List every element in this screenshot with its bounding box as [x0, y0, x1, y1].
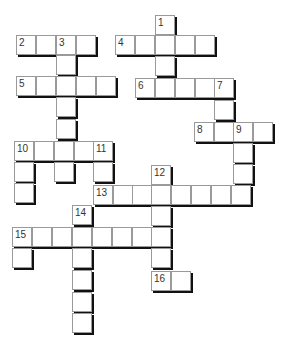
- crossword-cell[interactable]: [74, 141, 94, 161]
- crossword-cell[interactable]: 13: [93, 185, 113, 205]
- crossword-cell[interactable]: [96, 76, 116, 96]
- crossword-cell[interactable]: [56, 55, 76, 75]
- crossword-cell[interactable]: [113, 185, 133, 205]
- clue-number: 5: [19, 78, 25, 89]
- clue-number: 12: [154, 167, 165, 178]
- crossword-cell[interactable]: 8: [194, 122, 214, 142]
- clue-number: 16: [154, 273, 165, 284]
- crossword-cell[interactable]: [214, 122, 234, 142]
- clue-number: 11: [96, 143, 106, 154]
- crossword-cell[interactable]: [195, 35, 215, 55]
- crossword-cell[interactable]: [56, 97, 76, 117]
- crossword-cell[interactable]: [72, 313, 92, 333]
- crossword-cell[interactable]: [175, 78, 195, 98]
- crossword-cell[interactable]: 2: [16, 35, 36, 55]
- crossword-grid: 12345678910111213141516: [0, 0, 291, 353]
- crossword-cell[interactable]: 10: [14, 141, 34, 161]
- crossword-cell[interactable]: [72, 292, 92, 312]
- clue-number: 2: [19, 37, 25, 48]
- crossword-cell[interactable]: [231, 185, 251, 205]
- crossword-cell[interactable]: [214, 100, 234, 120]
- clue-number: 3: [59, 37, 65, 48]
- crossword-cell[interactable]: 9: [233, 122, 253, 142]
- crossword-cell[interactable]: [72, 270, 92, 290]
- crossword-cell[interactable]: 14: [72, 205, 92, 225]
- clue-number: 6: [138, 80, 144, 91]
- crossword-cell[interactable]: [14, 162, 34, 182]
- crossword-cell[interactable]: [93, 162, 113, 182]
- clue-number: 8: [197, 124, 203, 135]
- clue-number: 13: [96, 187, 107, 198]
- crossword-cell[interactable]: [54, 162, 74, 182]
- crossword-cell[interactable]: [92, 227, 112, 247]
- crossword-cell[interactable]: [233, 164, 253, 184]
- crossword-cell[interactable]: [112, 227, 132, 247]
- crossword-cell[interactable]: [76, 76, 96, 96]
- crossword-cell[interactable]: [76, 35, 96, 55]
- crossword-cell[interactable]: 12: [151, 165, 171, 185]
- clue-number: 7: [217, 80, 223, 91]
- clue-number: 9: [236, 124, 242, 135]
- crossword-cell[interactable]: [151, 248, 171, 268]
- crossword-cell[interactable]: [155, 35, 175, 55]
- crossword-cell[interactable]: [36, 35, 56, 55]
- crossword-cell[interactable]: [132, 227, 152, 247]
- crossword-cell[interactable]: [191, 185, 211, 205]
- crossword-cell[interactable]: [171, 185, 191, 205]
- crossword-cell[interactable]: 7: [214, 78, 234, 98]
- clue-number: 14: [75, 207, 86, 218]
- crossword-cell[interactable]: 15: [12, 227, 32, 247]
- clue-number: 15: [15, 229, 26, 240]
- clue-number: 1: [158, 17, 164, 28]
- crossword-cell[interactable]: [14, 183, 34, 203]
- crossword-cell[interactable]: [175, 35, 195, 55]
- clue-number: 4: [118, 37, 124, 48]
- crossword-cell[interactable]: [253, 122, 273, 142]
- crossword-cell[interactable]: [211, 185, 231, 205]
- crossword-cell[interactable]: [195, 78, 215, 98]
- crossword-cell[interactable]: [171, 271, 191, 291]
- crossword-cell[interactable]: [155, 56, 175, 76]
- crossword-cell[interactable]: [72, 248, 92, 268]
- crossword-cell[interactable]: [54, 141, 74, 161]
- crossword-cell[interactable]: 5: [16, 76, 36, 96]
- crossword-cell[interactable]: [56, 119, 76, 139]
- crossword-cell[interactable]: [132, 185, 152, 205]
- crossword-cell[interactable]: [155, 78, 175, 98]
- crossword-cell[interactable]: [72, 227, 92, 247]
- crossword-cell[interactable]: [32, 227, 52, 247]
- crossword-cell[interactable]: [56, 76, 76, 96]
- crossword-cell[interactable]: [151, 227, 171, 247]
- crossword-cell[interactable]: 4: [115, 35, 135, 55]
- crossword-cell[interactable]: [151, 185, 171, 205]
- crossword-cell[interactable]: [36, 76, 56, 96]
- crossword-cell[interactable]: [151, 206, 171, 226]
- crossword-cell[interactable]: 16: [151, 271, 171, 291]
- crossword-cell[interactable]: 3: [56, 35, 76, 55]
- crossword-cell[interactable]: [233, 143, 253, 163]
- crossword-cell[interactable]: [52, 227, 72, 247]
- crossword-cell[interactable]: 11: [93, 141, 113, 161]
- crossword-cell[interactable]: 6: [135, 78, 155, 98]
- crossword-cell[interactable]: 1: [155, 15, 175, 35]
- crossword-cell[interactable]: [12, 248, 32, 268]
- clue-number: 10: [17, 143, 28, 154]
- crossword-cell[interactable]: [34, 141, 54, 161]
- crossword-cell[interactable]: [135, 35, 155, 55]
